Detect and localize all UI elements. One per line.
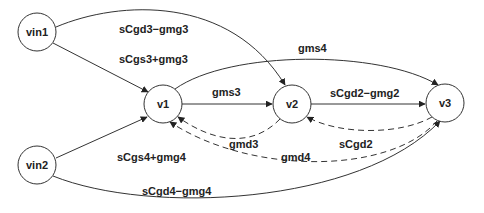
edge-v2-v1 bbox=[178, 117, 280, 138]
node-label-vin1: vin1 bbox=[26, 26, 48, 38]
edge-vin2-v3 bbox=[53, 121, 440, 198]
edge-label-vin1-v2: sCgd3−gmg3 bbox=[119, 23, 188, 35]
edge-label-v2-v3: sCgd2−gmg2 bbox=[330, 87, 399, 99]
node-label-v2: v2 bbox=[286, 98, 298, 110]
edge-label-vin1-v1: sCgs3+gmg3 bbox=[119, 53, 188, 65]
signal-flow-graph: vin1 v1 v2 v3 vin2 sCgd3−gmg3 sCgs3+gmg3… bbox=[0, 0, 484, 213]
edge-label-v3-v1: gmd4 bbox=[281, 151, 311, 163]
node-v1: v1 bbox=[144, 85, 182, 123]
node-vin1: vin1 bbox=[18, 13, 56, 51]
node-label-vin2: vin2 bbox=[26, 159, 48, 171]
node-v2: v2 bbox=[273, 85, 311, 123]
node-label-v1: v1 bbox=[157, 98, 169, 110]
edge-label-v2-v1: gmd3 bbox=[229, 138, 258, 150]
edge-label-v1-v3: gms4 bbox=[298, 42, 328, 54]
edge-vin1-v2 bbox=[56, 10, 285, 85]
edge-v3-v2 bbox=[307, 117, 432, 131]
node-vin2: vin2 bbox=[18, 146, 56, 184]
edge-label-v3-v2: sCgd2 bbox=[339, 138, 373, 150]
node-label-v3: v3 bbox=[439, 97, 451, 109]
edge-vin1-v1 bbox=[53, 43, 148, 92]
edge-label-v1-v2: gms3 bbox=[212, 86, 241, 98]
edge-label-vin2-v1: sCgs4+gmg4 bbox=[117, 151, 187, 163]
edge-v1-v3 bbox=[175, 59, 438, 89]
edge-label-vin2-v3: sCgd4−gmg4 bbox=[142, 185, 212, 197]
node-v3: v3 bbox=[426, 84, 464, 122]
